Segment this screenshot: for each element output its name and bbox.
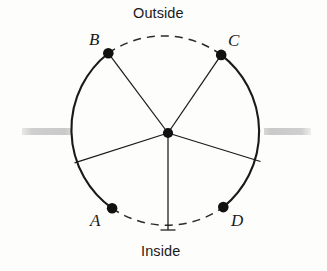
label-inside: Inside xyxy=(141,243,180,259)
point-d-dot xyxy=(218,202,229,213)
figure-container: Outside Inside A B C D xyxy=(0,0,327,271)
spoke-right-lower xyxy=(168,133,261,162)
point-center-dot xyxy=(163,128,173,138)
label-point-b: B xyxy=(89,30,99,50)
point-c-dot xyxy=(216,50,227,61)
label-outside: Outside xyxy=(133,5,184,21)
arc-left-solid xyxy=(71,53,112,208)
spoke-left-lower xyxy=(75,133,169,163)
spoke-to-c xyxy=(168,55,221,133)
point-a-dot xyxy=(107,203,118,214)
circle-spoke-diagram xyxy=(0,0,327,271)
label-point-d: D xyxy=(231,211,243,231)
label-point-a: A xyxy=(90,211,100,231)
arc-top-dashed xyxy=(108,36,221,55)
label-point-c: C xyxy=(228,31,239,51)
arc-right-solid xyxy=(221,55,259,207)
point-b-dot xyxy=(103,48,114,59)
spoke-to-b xyxy=(108,53,168,133)
band-left xyxy=(22,128,72,135)
band-right xyxy=(264,128,311,135)
